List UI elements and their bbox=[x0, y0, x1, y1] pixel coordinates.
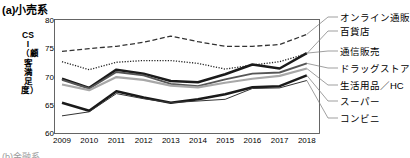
y-tick-label: 70 bbox=[34, 72, 54, 81]
x-axis-tick-labels: 2009 2010 2011 2012 2013 2014 2015 2016 … bbox=[0, 136, 406, 150]
legend-item-online-mailorder[interactable]: オンライン通販 bbox=[340, 10, 410, 24]
y-tick-label: 80 bbox=[34, 16, 54, 25]
legend-leader-line bbox=[307, 63, 338, 68]
y-axis-tick-labels: 60 65 70 75 80 bbox=[30, 0, 54, 158]
y-tick-label: 75 bbox=[34, 44, 54, 53]
legend-item-supermarket[interactable]: スーパー bbox=[340, 94, 380, 108]
series-layer bbox=[62, 34, 307, 116]
legend-item-household-hc[interactable]: 生活用品／HC bbox=[340, 78, 404, 92]
legend-leader-line bbox=[307, 51, 338, 53]
series-line bbox=[62, 34, 307, 51]
legend-item-drugstore[interactable]: ドラッグストア bbox=[340, 61, 410, 75]
legend-leader-line bbox=[307, 80, 338, 118]
next-panel-clipped-text: (b)金融系 bbox=[2, 150, 40, 158]
legend-item-department-store[interactable]: 百貨店 bbox=[340, 24, 370, 38]
x-tick-label: 2018 bbox=[290, 136, 324, 145]
y-tick-label: 65 bbox=[34, 100, 54, 109]
legend-leader-lines bbox=[307, 17, 338, 118]
legend-leader-line bbox=[307, 31, 338, 54]
legend-item-mailorder[interactable]: 通信販売 bbox=[340, 44, 380, 58]
legend-leader-line bbox=[307, 69, 338, 85]
legend-item-convenience-store[interactable]: コンビニ bbox=[340, 111, 380, 125]
